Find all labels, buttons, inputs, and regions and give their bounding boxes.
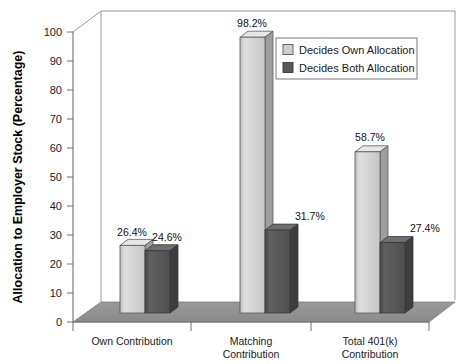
bar-chart-3d: 0 10 20 30 40 50 60 70 80 90 100 Allocat… (0, 0, 463, 364)
bar-series-decides-both-0 (145, 245, 178, 313)
bar-value-label: 58.7% (355, 131, 385, 143)
bar-value-label: 26.4% (117, 226, 147, 238)
y-tick-label: 50 (50, 171, 62, 183)
x-category-label-own: Own Contribution (91, 335, 172, 347)
y-tick-label: 60 (50, 142, 62, 154)
legend-item-decides-own-allocation[interactable]: Decides Own Allocation (283, 44, 415, 56)
y-tick-label: 100 (44, 26, 62, 38)
bar-value-label: 27.4% (410, 222, 440, 234)
y-tick-label: 10 (50, 287, 62, 299)
bar-series-decides-both-2 (380, 237, 413, 314)
legend: Decides Own Allocation Decides Both Allo… (276, 38, 417, 79)
y-axis-ticks: 0 10 20 30 40 50 60 70 80 90 100 (44, 26, 73, 328)
legend-swatch-icon (283, 45, 293, 55)
legend-swatch-icon (283, 63, 293, 73)
y-tick-label: 80 (50, 84, 62, 96)
x-category-label-matching-line2: Contribution (223, 348, 280, 360)
x-category-label-total401k-line1: Total 401(k) (343, 335, 398, 347)
y-tick-label: 90 (50, 55, 62, 67)
y-axis-title: Allocation to Employer Stock (Percentage… (11, 51, 25, 304)
chart-svg: 0 10 20 30 40 50 60 70 80 90 100 Allocat… (0, 0, 463, 364)
x-axis-ticks (73, 322, 429, 331)
bar-value-label: 31.7% (295, 210, 325, 222)
y-tick-label: 40 (50, 200, 62, 212)
legend-label: Decides Own Allocation (299, 44, 415, 56)
y-tick-label: 30 (50, 229, 62, 241)
legend-item-decides-both-allocation[interactable]: Decides Both Allocation (283, 62, 415, 74)
y-tick-label: 20 (50, 258, 62, 270)
legend-label: Decides Both Allocation (299, 62, 415, 74)
y-tick-label: 70 (50, 113, 62, 125)
bar-value-label: 24.6% (152, 231, 182, 243)
x-category-label-matching-line1: Matching (230, 335, 273, 347)
x-category-label-total401k-line2: Contribution (342, 348, 399, 360)
x-axis-labels: Own Contribution Matching Contribution T… (91, 335, 398, 360)
y-tick-label: 0 (56, 316, 62, 328)
bar-value-label: 98.2% (237, 17, 267, 29)
bar-series-decides-both-1 (265, 224, 298, 313)
